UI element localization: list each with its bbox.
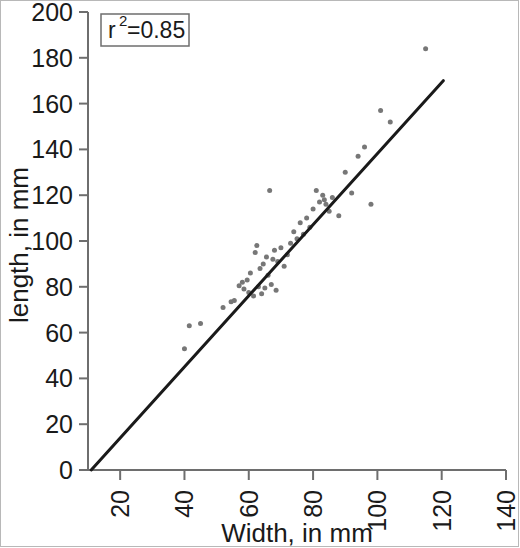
y-tick-label: 100 (31, 227, 73, 255)
data-point (267, 188, 272, 193)
y-axis-ticks (79, 12, 88, 470)
data-point (272, 248, 277, 253)
y-tick-label: 180 (31, 44, 73, 72)
x-axis-title: Width, in mm (221, 518, 373, 548)
x-tick-label: 60 (235, 490, 263, 518)
data-point (282, 264, 287, 269)
data-point (368, 202, 373, 207)
chart-figure: 020406080100120140160180200 204060801001… (0, 0, 520, 548)
data-point (248, 271, 253, 276)
y-tick-label: 20 (45, 410, 73, 438)
data-point (270, 257, 275, 262)
data-point (311, 206, 316, 211)
x-tick-label: 20 (106, 490, 134, 518)
scatter-plot-canvas: 020406080100120140160180200 204060801001… (0, 0, 520, 548)
data-point (187, 323, 192, 328)
y-axis-tick-labels: 020406080100120140160180200 (31, 0, 73, 484)
data-point (388, 119, 393, 124)
data-point (291, 229, 296, 234)
y-tick-label: 60 (45, 319, 73, 347)
data-point (314, 188, 319, 193)
x-tick-label: 120 (428, 490, 456, 532)
data-point (378, 108, 383, 113)
data-point (182, 346, 187, 351)
regression-line (91, 81, 443, 470)
data-points-layer (182, 46, 428, 351)
data-point (423, 46, 428, 51)
data-point (343, 170, 348, 175)
data-point (323, 202, 328, 207)
y-axis-title: length, in mm (4, 167, 34, 323)
data-point (241, 287, 246, 292)
data-point (356, 154, 361, 159)
regression-line-layer (91, 81, 443, 470)
x-tick-label: 140 (492, 490, 520, 532)
y-tick-label: 80 (45, 273, 73, 301)
data-point (362, 145, 367, 150)
r-squared-label: r (108, 17, 116, 43)
data-point (198, 321, 203, 326)
annotation-layer: r 2 =0.85 (101, 12, 189, 46)
data-point (253, 250, 258, 255)
data-point (259, 291, 264, 296)
x-axis-ticks (120, 470, 506, 480)
data-point (349, 190, 354, 195)
data-point (258, 266, 263, 271)
r-squared-value: =0.85 (127, 17, 185, 43)
x-tick-label: 40 (170, 490, 198, 518)
y-tick-label: 160 (31, 90, 73, 118)
data-point (320, 193, 325, 198)
data-point (261, 261, 266, 266)
data-point (288, 241, 293, 246)
y-tick-label: 120 (31, 181, 73, 209)
data-point (232, 298, 237, 303)
data-point (278, 245, 283, 250)
data-point (322, 197, 327, 202)
data-point (240, 280, 245, 285)
y-tick-label: 0 (59, 456, 73, 484)
y-tick-label: 140 (31, 135, 73, 163)
x-tick-label: 80 (299, 490, 327, 518)
data-point (336, 213, 341, 218)
data-point (262, 285, 267, 290)
data-point (304, 216, 309, 221)
data-point (254, 243, 259, 248)
data-point (317, 200, 322, 205)
data-point (274, 288, 279, 293)
data-point (245, 277, 250, 282)
y-tick-label: 40 (45, 364, 73, 392)
data-point (298, 220, 303, 225)
data-point (269, 282, 274, 287)
y-tick-label: 200 (31, 0, 73, 26)
data-point (264, 255, 269, 260)
data-point (221, 305, 226, 310)
